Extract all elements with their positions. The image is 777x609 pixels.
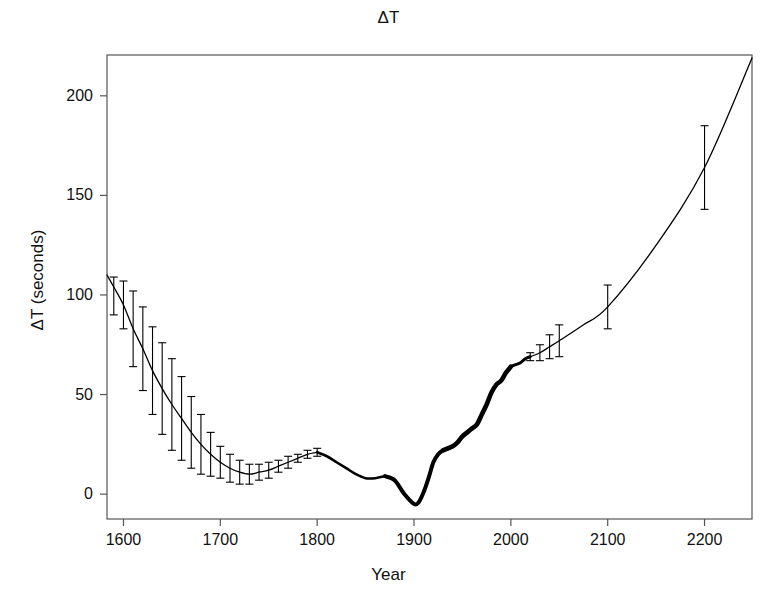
y-tick-label: 50 [0,386,93,404]
data-line-segment [317,452,385,478]
x-tick-label: 1600 [106,531,142,549]
axis-ticks [100,96,705,526]
plot-canvas [0,0,777,609]
x-tick-label: 1900 [396,531,432,549]
plot-frame [107,55,752,519]
x-tick-label: 1800 [299,531,335,549]
x-tick-label: 2200 [687,531,723,549]
x-tick-label: 1700 [203,531,239,549]
y-tick-label: 200 [0,87,93,105]
chart-figure: ΔT ΔT (seconds) Year 1600170018001900200… [0,0,777,609]
data-line-segment [107,275,317,474]
data-line [107,58,752,505]
axes-frame [107,55,752,519]
y-tick-label: 100 [0,286,93,304]
x-tick-label: 2000 [493,531,529,549]
data-line-segment [385,448,448,504]
y-tick-label: 150 [0,186,93,204]
data-line-segment [530,58,752,357]
y-tick-label: 0 [0,485,93,503]
data-line-segment [443,367,511,451]
x-tick-label: 2100 [590,531,626,549]
data-line-segment [506,357,530,373]
error-bars [110,126,709,484]
